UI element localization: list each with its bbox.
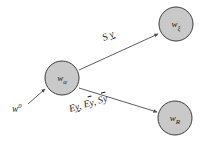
label-S-y-under-text: S y xyxy=(100,28,116,43)
label-Ey-Ey-Sy-text: Ey, Ey, Sy xyxy=(67,92,109,114)
node-w-alpha[interactable]: wα xyxy=(45,61,79,95)
node-w-r-subscript: R xyxy=(175,118,181,126)
label-w0-superscript: 0 xyxy=(18,102,22,109)
edge-input-arrow xyxy=(28,89,45,104)
node-edge-diagram: wα wξ wR w0 S y xyxy=(0,0,205,144)
node-w-alpha-subscript: α xyxy=(63,78,67,86)
label-Ey-Ey-Sy: Ey, Ey, Sy xyxy=(67,92,109,114)
node-w-xi-subscript: ξ xyxy=(178,24,181,32)
label-S-y-under: S y xyxy=(100,28,116,43)
label-w0: w0 xyxy=(12,102,22,114)
diagram-canvas: wα wξ wR w0 S y xyxy=(0,0,205,144)
node-w-r[interactable]: wR xyxy=(158,101,192,135)
label-w0-text: w0 xyxy=(12,102,22,114)
edge-alpha-to-xi-arrow xyxy=(79,34,158,70)
node-w-xi[interactable]: wξ xyxy=(159,7,193,41)
